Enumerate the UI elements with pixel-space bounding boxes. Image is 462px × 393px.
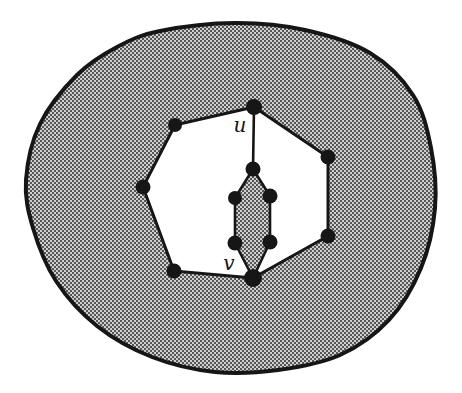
vertex-label-v: v <box>223 251 235 275</box>
vertex-cycle-lower-left <box>228 236 243 251</box>
edge-u-to-inner-path <box>253 107 254 169</box>
graph-figure: u v <box>0 0 462 393</box>
vertex-label-u: u <box>234 113 247 137</box>
vertex-u <box>246 99 262 115</box>
vertex-path-top <box>246 162 261 177</box>
figure-canvas: u v <box>0 0 462 393</box>
vertex-face-top-left <box>168 118 182 132</box>
vertex-cycle-lower-right <box>263 235 278 250</box>
vertex-face-left <box>136 180 151 195</box>
vertex-cycle-upper-right <box>263 189 278 204</box>
vertex-face-bottom-left <box>167 264 182 279</box>
vertex-face-bottom-right <box>321 229 336 244</box>
vertex-cycle-upper-left <box>228 191 242 205</box>
vertex-v <box>244 269 262 287</box>
vertex-face-right <box>321 150 336 165</box>
